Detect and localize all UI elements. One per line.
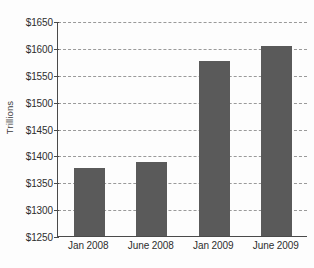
bar[interactable] — [199, 61, 230, 236]
x-axis-tick-label: Jan 2009 — [193, 240, 233, 251]
y-axis-tick-label: $1450 — [26, 124, 53, 135]
bar-chart: Trillions $1250$1300$1350$1400$1450$1500… — [0, 0, 314, 268]
bars-group — [58, 22, 307, 236]
bar[interactable] — [261, 46, 292, 236]
x-axis-tick-label: Jan 2008 — [68, 240, 108, 251]
x-axis-tick-label: June 2008 — [128, 240, 174, 251]
bar[interactable] — [136, 162, 167, 236]
y-axis-tick-label: $1550 — [26, 70, 53, 81]
y-axis-tick-label: $1650 — [26, 17, 53, 28]
y-axis-tick-label: $1600 — [26, 43, 53, 54]
y-axis-tick-labels: $1250$1300$1350$1400$1450$1500$1550$1600… — [0, 0, 56, 268]
x-axis-tick-labels: Jan 2008June 2008Jan 2009June 2009 — [57, 240, 307, 260]
y-axis-tick-label: $1300 — [26, 205, 53, 216]
plot-area — [57, 22, 307, 237]
y-axis-tick-label: $1400 — [26, 151, 53, 162]
x-axis-tick-label: June 2009 — [253, 240, 299, 251]
bar[interactable] — [74, 168, 105, 236]
y-axis-tick-mark — [54, 237, 59, 238]
y-axis-tick-label: $1250 — [26, 232, 53, 243]
y-axis-tick-label: $1500 — [26, 97, 53, 108]
y-axis-tick-label: $1350 — [26, 178, 53, 189]
